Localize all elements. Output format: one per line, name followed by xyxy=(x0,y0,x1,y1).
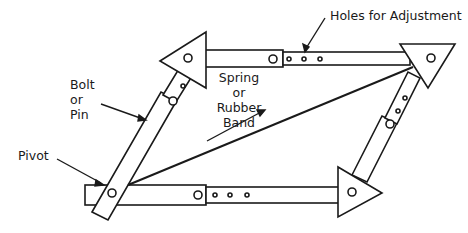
adjust-hole xyxy=(213,193,217,197)
bottom-right-triangle-hole xyxy=(348,188,356,196)
diagram-canvas: Holes for Adjustment Bolt or Pin Spring … xyxy=(0,0,468,233)
right-bar-bolt-hole xyxy=(386,120,394,128)
adjust-hole xyxy=(181,84,185,88)
adjust-hole xyxy=(228,193,232,197)
adjust-hole xyxy=(403,96,407,100)
top-left-triangle-hole xyxy=(184,54,192,62)
top-bar-bolt-hole xyxy=(269,55,277,63)
bolt-leader xyxy=(101,104,143,119)
adjust-hole xyxy=(318,57,322,61)
label-holes-for-adjustment: Holes for Adjustment xyxy=(330,8,462,23)
left-bar-bolt-hole xyxy=(169,97,177,105)
label-bolt-or-pin: Bolt or Pin xyxy=(70,77,95,122)
label-spring-or-rubber-band: Spring or Rubber Band xyxy=(210,70,268,130)
bottom-bar-inner xyxy=(206,187,340,203)
top-right-triangle-hole xyxy=(427,54,435,62)
adjust-hole xyxy=(396,109,400,113)
holes-leader xyxy=(305,18,325,50)
adjust-hole xyxy=(302,57,306,61)
pivot-hole xyxy=(108,189,116,197)
bottom-bar-bolt-hole xyxy=(194,191,202,199)
bolt-arrowhead xyxy=(138,115,146,121)
pivot-leader xyxy=(57,159,101,183)
label-pivot: Pivot xyxy=(18,148,49,163)
pivot-arrowhead xyxy=(95,180,104,186)
adjust-hole xyxy=(287,57,291,61)
adjust-hole xyxy=(245,193,249,197)
